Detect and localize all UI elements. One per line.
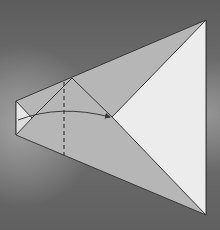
origami-diagram [0,0,220,230]
diagram-canvas [0,0,220,230]
